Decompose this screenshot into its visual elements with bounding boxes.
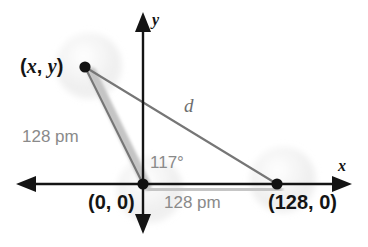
variable-x: x [27, 55, 37, 77]
x-axis-arrow-left [16, 176, 36, 192]
y-axis-label: y [152, 12, 159, 28]
point-label-128-0: (128, 0) [268, 192, 337, 212]
point-marker-128-0 [271, 178, 282, 189]
geometry-figure: (x, y) 128 pm 117° d (0, 0) 128 pm (128,… [0, 0, 368, 247]
point-label-origin: (0, 0) [88, 192, 135, 212]
bond-length-label-right: 128 pm [164, 194, 221, 211]
label-separator: , [37, 55, 48, 77]
distance-label: d [184, 96, 194, 115]
x-axis-label: x [338, 158, 346, 174]
bond-length-label-left: 128 pm [22, 128, 79, 145]
angle-label: 117° [150, 154, 184, 171]
y-axis-arrow-up [135, 12, 151, 32]
point-marker-xy [79, 61, 90, 72]
point-label-xy: (x, y) [20, 56, 63, 76]
x-axis-arrow-right [332, 176, 352, 192]
variable-y: y [48, 55, 57, 77]
bond-cylinder-right [150, 189, 279, 190]
point-marker-origin [137, 178, 148, 189]
y-axis-arrow-down [135, 214, 151, 234]
